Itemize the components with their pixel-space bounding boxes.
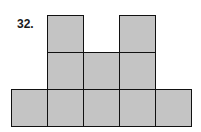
square-r3-c2	[47, 89, 84, 127]
square-r2-c2	[47, 52, 84, 90]
square-r2-c3	[83, 52, 120, 90]
square-r3-c5	[155, 89, 192, 127]
square-r3-c4	[119, 89, 156, 127]
square-r3-c3	[83, 89, 120, 127]
square-r2-c4	[119, 52, 156, 90]
square-r1-c4	[119, 15, 156, 53]
problem-number: 32.	[17, 17, 34, 31]
square-r3-c1	[11, 89, 48, 127]
square-r1-c2	[47, 15, 84, 53]
